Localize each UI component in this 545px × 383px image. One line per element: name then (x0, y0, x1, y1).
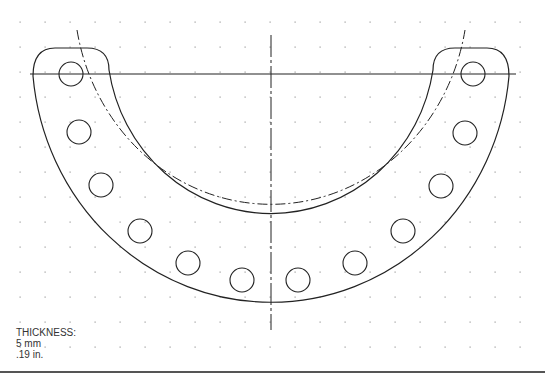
bolt-hole (391, 219, 415, 243)
technical-drawing (0, 0, 545, 383)
bolt-hole (343, 251, 367, 275)
thickness-note: THICKNESS: 5 mm .19 in. (16, 327, 76, 360)
bolt-hole (429, 174, 453, 198)
bolt-hole (67, 120, 91, 144)
bolt-hole (89, 173, 113, 197)
thickness-label: THICKNESS: (16, 327, 76, 338)
bottom-divider (0, 371, 545, 373)
bolt-hole (286, 268, 310, 292)
bolt-hole (453, 121, 477, 145)
grid-dots (20, 22, 521, 348)
thickness-metric: 5 mm (16, 338, 76, 349)
thickness-imperial: .19 in. (16, 349, 76, 360)
bolt-hole (230, 268, 254, 292)
bolt-hole (128, 219, 152, 243)
bolt-hole (176, 251, 200, 275)
bolt-holes (59, 62, 485, 292)
